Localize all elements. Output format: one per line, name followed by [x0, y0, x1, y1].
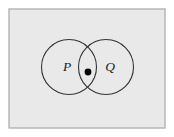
venn-diagram-canvas: P Q [0, 0, 174, 137]
universal-set-box [9, 9, 165, 128]
set-label-p: P [62, 59, 71, 74]
set-label-q: Q [105, 59, 115, 74]
intersection-point-dot [85, 69, 92, 76]
venn-diagram-figure: P Q [0, 0, 174, 137]
